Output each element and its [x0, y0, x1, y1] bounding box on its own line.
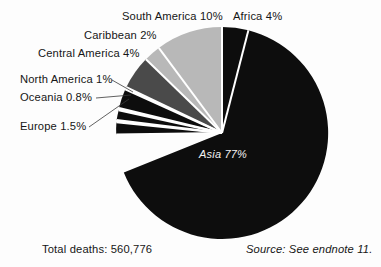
label-oceania: Oceania 0.8% — [20, 92, 92, 103]
label-asia: Asia 77% — [199, 148, 247, 160]
total-deaths-note: Total deaths: 560,776 — [42, 243, 152, 255]
label-europe: Europe 1.5% — [20, 121, 86, 132]
label-central-america: Central America 4% — [38, 48, 140, 59]
label-south-america: South America 10% — [122, 11, 223, 22]
label-caribbean: Caribbean 2% — [84, 30, 157, 41]
pie-chart-figure: South America 10% Africa 4% Caribbean 2%… — [0, 0, 381, 267]
source-note: Source: See endnote 11. — [246, 243, 372, 255]
pie-chart-canvas — [0, 0, 381, 267]
label-north-america: North America 1% — [20, 74, 113, 85]
label-africa: Africa 4% — [233, 11, 282, 22]
